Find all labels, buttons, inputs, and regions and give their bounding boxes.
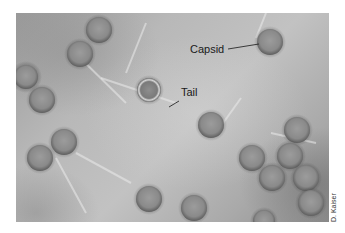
capsid-label: Capsid <box>190 44 224 55</box>
tail-label: Tail <box>181 87 198 98</box>
photo-credit: D. Kaiser <box>330 193 337 222</box>
figure: Capsid Tail D. Kaiser <box>0 0 345 233</box>
capsid-leader-line <box>228 44 259 49</box>
capsids <box>16 14 327 222</box>
electron-micrograph <box>16 13 329 222</box>
phage-particles <box>16 13 329 222</box>
